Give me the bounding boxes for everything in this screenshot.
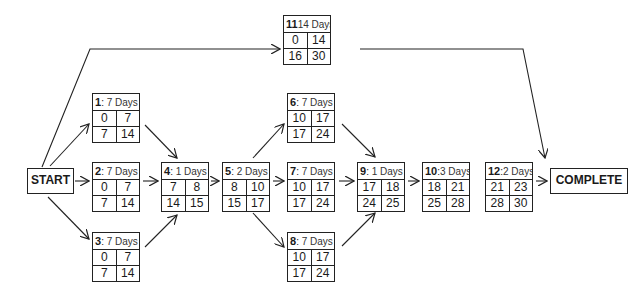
early-start: 10 (288, 111, 311, 126)
late-start: 7 (93, 196, 116, 211)
early-start: 0 (93, 111, 116, 126)
network-diagram: START COMPLETE 1114 Days 014 1630 1: 7 D… (0, 0, 637, 301)
edge-3-4 (145, 215, 177, 247)
complete-node: COMPLETE (550, 168, 628, 194)
edge-start-1 (50, 124, 89, 166)
activity-duration: 2 Days (503, 166, 532, 177)
activity-node-6: 6: 7 Days 1017 1724 (287, 93, 335, 143)
activity-node-2: 2: 7 Days 07 714 (92, 162, 140, 212)
activity-duration: 7 Days (302, 236, 333, 247)
early-start: 0 (93, 180, 116, 195)
late-finish: 14 (116, 196, 140, 211)
start-node: START (27, 168, 74, 194)
late-finish: 25 (381, 196, 405, 211)
activity-node-10: 10:3 Days 1821 2528 (422, 162, 470, 212)
late-finish: 28 (446, 196, 470, 211)
activity-duration: 3 Days (440, 166, 469, 177)
late-start: 7 (93, 266, 116, 281)
activity-duration: 7 Days (302, 166, 333, 177)
edge-start-11 (42, 49, 280, 167)
early-finish: 7 (116, 180, 140, 195)
late-start: 17 (288, 266, 311, 281)
early-start: 8 (223, 180, 246, 195)
activity-node-3: 3: 7 Days 07 714 (92, 232, 140, 282)
late-finish: 24 (311, 196, 335, 211)
edge-8-9 (342, 213, 375, 246)
early-start: 0 (93, 250, 116, 265)
late-start: 24 (358, 196, 381, 211)
late-finish: 24 (311, 127, 335, 142)
late-finish: 14 (116, 266, 140, 281)
late-finish: 14 (116, 127, 140, 142)
early-finish: 17 (311, 250, 335, 265)
activity-id: 12 (488, 165, 500, 177)
late-finish: 30 (509, 196, 533, 211)
late-finish: 24 (311, 266, 335, 281)
early-finish: 7 (116, 111, 140, 126)
early-start: 10 (288, 180, 311, 195)
early-finish: 21 (446, 180, 470, 195)
early-finish: 18 (381, 180, 405, 195)
early-finish: 7 (116, 250, 140, 265)
activity-duration: 7 Days (302, 97, 333, 108)
activity-node-12: 12:2 Days 2123 2830 (485, 162, 533, 212)
late-start: 28 (486, 196, 509, 211)
late-finish: 17 (246, 196, 270, 211)
early-start: 7 (162, 180, 185, 195)
edge-start-3 (48, 197, 89, 239)
early-finish: 10 (246, 180, 270, 195)
late-start: 7 (93, 127, 116, 142)
edge-1-4 (145, 125, 177, 158)
early-start: 0 (284, 33, 307, 48)
early-finish: 23 (509, 180, 533, 195)
early-finish: 8 (185, 180, 209, 195)
activity-node-9: 9: 1 Days 1718 2425 (357, 162, 405, 212)
early-start: 18 (423, 180, 446, 195)
activity-duration: 1 Days (176, 166, 207, 177)
activity-duration: 2 Days (237, 166, 268, 177)
activity-duration: 7 Days (107, 97, 138, 108)
late-start: 17 (288, 127, 311, 142)
edge-5-8 (253, 213, 284, 247)
early-finish: 17 (311, 180, 335, 195)
edge-5-6 (253, 124, 284, 158)
late-start: 17 (288, 196, 311, 211)
activity-id: 10 (425, 165, 437, 177)
early-start: 21 (486, 180, 509, 195)
early-finish: 17 (311, 111, 335, 126)
edge-11-complete (360, 49, 545, 158)
activity-duration: 7 Days (107, 166, 138, 177)
activity-duration: 1 Days (372, 166, 403, 177)
early-start: 17 (358, 180, 381, 195)
late-start: 14 (162, 196, 185, 211)
late-finish: 15 (185, 196, 209, 211)
late-start: 16 (284, 49, 307, 64)
activity-duration: 7 Days (107, 236, 138, 247)
early-start: 10 (288, 250, 311, 265)
activity-node-11: 1114 Days 014 1630 (283, 15, 331, 65)
edge-6-9 (342, 124, 375, 157)
late-start: 25 (423, 196, 446, 211)
activity-node-1: 1: 7 Days 07 714 (92, 93, 140, 143)
activity-node-5: 5: 2 Days 810 1517 (222, 162, 270, 212)
activity-node-8: 8: 7 Days 1017 1724 (287, 232, 335, 282)
activity-node-4: 4: 1 Days 78 1415 (161, 162, 209, 212)
late-finish: 30 (307, 49, 331, 64)
early-finish: 14 (307, 33, 331, 48)
late-start: 15 (223, 196, 246, 211)
activity-node-7: 7: 7 Days 1017 1724 (287, 162, 335, 212)
activity-duration: 14 Days (298, 19, 330, 30)
activity-id: 11 (286, 18, 298, 30)
